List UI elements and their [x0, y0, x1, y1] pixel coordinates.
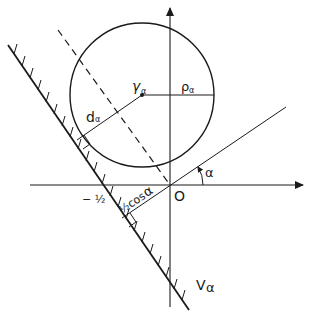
label-origin: O — [174, 188, 185, 204]
label-distance: d α — [86, 109, 100, 125]
svg-text:α: α — [95, 115, 100, 124]
label-angle: α — [205, 165, 214, 180]
label-minus-half: − ½ — [82, 193, 105, 206]
diagram-canvas: γ α ρ α d α − ½ ½cos α O α V α — [0, 0, 311, 322]
boundary-line — [8, 45, 189, 310]
svg-text:V: V — [196, 277, 206, 293]
svg-text:d: d — [86, 109, 95, 125]
angle-arc — [198, 167, 203, 185]
label-region: V α — [196, 277, 215, 295]
boundary-hatching — [14, 44, 185, 300]
svg-text:α: α — [141, 87, 146, 96]
label-center: γ α — [132, 78, 146, 96]
direction-line — [122, 107, 286, 218]
label-radius: ρ α — [181, 79, 194, 95]
svg-text:γ: γ — [132, 78, 141, 94]
svg-text:α: α — [189, 86, 194, 95]
svg-text:α: α — [206, 280, 215, 295]
